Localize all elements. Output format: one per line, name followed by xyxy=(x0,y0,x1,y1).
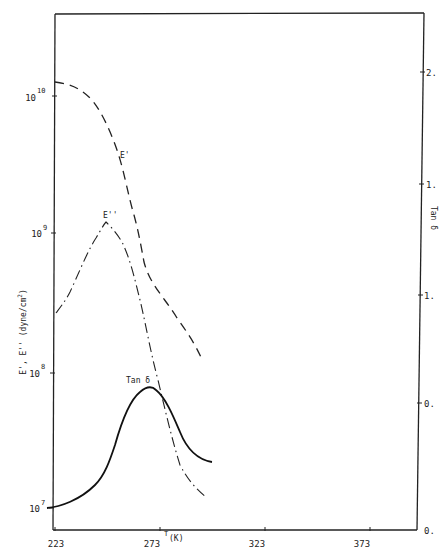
xtick-323: 323 xyxy=(249,539,265,548)
top-border xyxy=(55,13,424,14)
label-e-prime: E' xyxy=(120,151,130,160)
ytick-label-1e10: 10 xyxy=(25,93,36,103)
svg-text:Tan δ: Tan δ xyxy=(429,206,438,230)
y2tick-2: 1. xyxy=(424,291,435,301)
left-axis xyxy=(53,14,55,530)
y-axis-title: E', E'' (dyne/cm2) xyxy=(16,289,28,375)
series-tan-delta xyxy=(47,387,212,508)
ytick-exp-1e10: 10 xyxy=(37,87,45,95)
xtick-223: 223 xyxy=(48,539,64,548)
right-axis xyxy=(417,13,424,530)
label-e-double-prime: E'' xyxy=(103,211,117,220)
xtick-373: 373 xyxy=(354,539,370,548)
y2tick-3: 0. xyxy=(424,399,435,409)
ytick-exp-1e9: 9 xyxy=(43,224,47,232)
y2tick-4: 0. xyxy=(424,526,435,536)
x-tick-labels: 223 273 323 373 xyxy=(48,539,370,548)
x-axis-title-sub: (K) xyxy=(169,534,183,543)
xtick-273: 273 xyxy=(144,539,160,548)
ytick-label-1e7: 10 xyxy=(29,504,40,514)
y2tick-0: 2. xyxy=(426,68,437,78)
ytick-exp-1e7: 7 xyxy=(41,499,45,507)
series-e-double-prime xyxy=(56,222,207,498)
ytick-label-1e8: 10 xyxy=(29,369,40,379)
y-tick-labels: 10 10 10 9 10 8 10 7 xyxy=(25,87,47,514)
chart-canvas: 10 10 10 9 10 8 10 7 223 273 323 373 2. … xyxy=(0,0,442,548)
y2tick-1: 1. xyxy=(426,180,437,190)
label-tan-delta: Tan δ xyxy=(126,376,150,385)
y2-axis-title: Tan δ xyxy=(429,206,438,230)
plot-frame xyxy=(53,13,424,530)
y2-tick-labels: 2. 1. 1. 0. 0. xyxy=(424,68,437,536)
ytick-exp-1e8: 8 xyxy=(41,363,45,371)
series-e-prime xyxy=(55,82,203,362)
svg-text:E', E'' (dyne/cm2): E', E'' (dyne/cm2) xyxy=(16,289,28,375)
ytick-label-1e9: 10 xyxy=(31,229,42,239)
